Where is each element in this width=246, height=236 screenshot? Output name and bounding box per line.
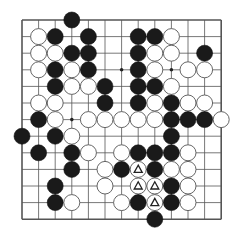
white-stone[interactable] — [47, 45, 63, 61]
white-stone[interactable] — [180, 161, 196, 177]
white-stone[interactable] — [180, 145, 196, 161]
black-stone[interactable] — [197, 45, 213, 61]
black-stone[interactable] — [147, 78, 163, 94]
white-stone[interactable] — [97, 178, 113, 194]
black-stone[interactable] — [97, 78, 113, 94]
white-stone[interactable] — [163, 78, 179, 94]
white-stone[interactable] — [31, 95, 47, 111]
white-stone[interactable] — [147, 178, 163, 194]
star-point — [70, 118, 74, 122]
black-stone[interactable] — [147, 29, 163, 45]
black-stone[interactable] — [47, 128, 63, 144]
star-point — [120, 68, 124, 72]
white-stone[interactable] — [180, 62, 196, 78]
white-stone[interactable] — [64, 128, 80, 144]
white-stone[interactable] — [97, 112, 113, 128]
white-stone[interactable] — [114, 195, 130, 211]
white-stone[interactable] — [180, 195, 196, 211]
white-stone[interactable] — [130, 112, 146, 128]
black-stone[interactable] — [31, 112, 47, 128]
black-stone[interactable] — [130, 195, 146, 211]
white-stone[interactable] — [180, 178, 196, 194]
white-stone[interactable] — [64, 195, 80, 211]
black-stone[interactable] — [197, 112, 213, 128]
white-stone[interactable] — [163, 45, 179, 61]
black-stone[interactable] — [163, 145, 179, 161]
black-stone[interactable] — [80, 29, 96, 45]
black-stone[interactable] — [130, 45, 146, 61]
white-stone[interactable] — [163, 29, 179, 45]
white-stone[interactable] — [47, 112, 63, 128]
white-stone[interactable] — [130, 161, 146, 177]
white-stone[interactable] — [147, 95, 163, 111]
white-stone[interactable] — [197, 62, 213, 78]
black-stone[interactable] — [163, 128, 179, 144]
black-stone[interactable] — [130, 29, 146, 45]
black-stone[interactable] — [114, 161, 130, 177]
black-stone[interactable] — [64, 161, 80, 177]
black-stone[interactable] — [130, 95, 146, 111]
white-stone[interactable] — [31, 29, 47, 45]
white-stone[interactable] — [64, 62, 80, 78]
white-stone[interactable] — [180, 95, 196, 111]
white-stone[interactable] — [130, 178, 146, 194]
star-point — [170, 68, 174, 72]
black-stone[interactable] — [163, 95, 179, 111]
black-stone[interactable] — [64, 145, 80, 161]
black-stone[interactable] — [31, 145, 47, 161]
white-stone[interactable] — [47, 95, 63, 111]
black-stone[interactable] — [163, 195, 179, 211]
black-stone[interactable] — [47, 62, 63, 78]
white-stone[interactable] — [114, 112, 130, 128]
white-stone[interactable] — [97, 161, 113, 177]
black-stone[interactable] — [64, 12, 80, 28]
black-stone[interactable] — [163, 178, 179, 194]
white-stone[interactable] — [80, 112, 96, 128]
white-stone[interactable] — [147, 195, 163, 211]
black-stone[interactable] — [130, 62, 146, 78]
white-stone[interactable] — [80, 78, 96, 94]
black-stone[interactable] — [80, 62, 96, 78]
black-stone[interactable] — [97, 95, 113, 111]
black-stone[interactable] — [130, 145, 146, 161]
white-stone[interactable] — [31, 62, 47, 78]
white-stone[interactable] — [80, 145, 96, 161]
black-stone[interactable] — [80, 45, 96, 61]
black-stone[interactable] — [47, 178, 63, 194]
black-stone[interactable] — [130, 78, 146, 94]
white-stone[interactable] — [147, 62, 163, 78]
white-stone[interactable] — [64, 78, 80, 94]
black-stone[interactable] — [147, 161, 163, 177]
go-board[interactable] — [0, 0, 246, 236]
black-stone[interactable] — [147, 145, 163, 161]
black-stone[interactable] — [180, 112, 196, 128]
white-stone[interactable] — [147, 45, 163, 61]
white-stone[interactable] — [31, 45, 47, 61]
white-stone[interactable] — [197, 95, 213, 111]
black-stone[interactable] — [47, 29, 63, 45]
black-stone[interactable] — [47, 195, 63, 211]
white-stone[interactable] — [213, 112, 229, 128]
white-stone[interactable] — [147, 112, 163, 128]
black-stone[interactable] — [47, 78, 63, 94]
black-stone[interactable] — [64, 45, 80, 61]
black-stone[interactable] — [14, 128, 30, 144]
black-stone[interactable] — [163, 112, 179, 128]
black-stone[interactable] — [147, 211, 163, 227]
white-stone[interactable] — [163, 161, 179, 177]
white-stone[interactable] — [114, 145, 130, 161]
